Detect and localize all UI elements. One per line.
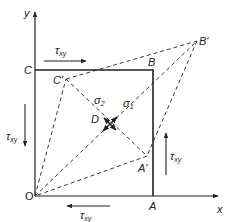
point-d-label: D — [91, 113, 99, 125]
point-c-label: C — [24, 64, 32, 76]
sigma2-label: σ2 — [94, 94, 105, 107]
tau-right-label: τxy — [170, 150, 182, 164]
tau-top-label: τxy — [55, 44, 67, 58]
point-b-label: B — [148, 56, 155, 68]
point-a-label: A — [148, 200, 156, 212]
point-b-prime-label: B' — [199, 35, 209, 47]
shear-diagram: y x O C B A B' C' A' D σ2 σ1 τxy τxy τxy… — [0, 0, 232, 222]
tau-left-label: τxy — [6, 130, 18, 144]
point-a-prime-label: A' — [137, 162, 148, 174]
sigma1-label: σ1 — [123, 97, 134, 110]
point-c-prime-label: C' — [53, 74, 64, 86]
origin-label: O — [25, 190, 34, 202]
x-axis-label: x — [216, 203, 223, 215]
original-element — [35, 70, 153, 196]
tau-bottom-label: τxy — [80, 209, 92, 222]
principal-stress-arrows — [103, 117, 117, 131]
y-axis-label: y — [23, 7, 31, 19]
